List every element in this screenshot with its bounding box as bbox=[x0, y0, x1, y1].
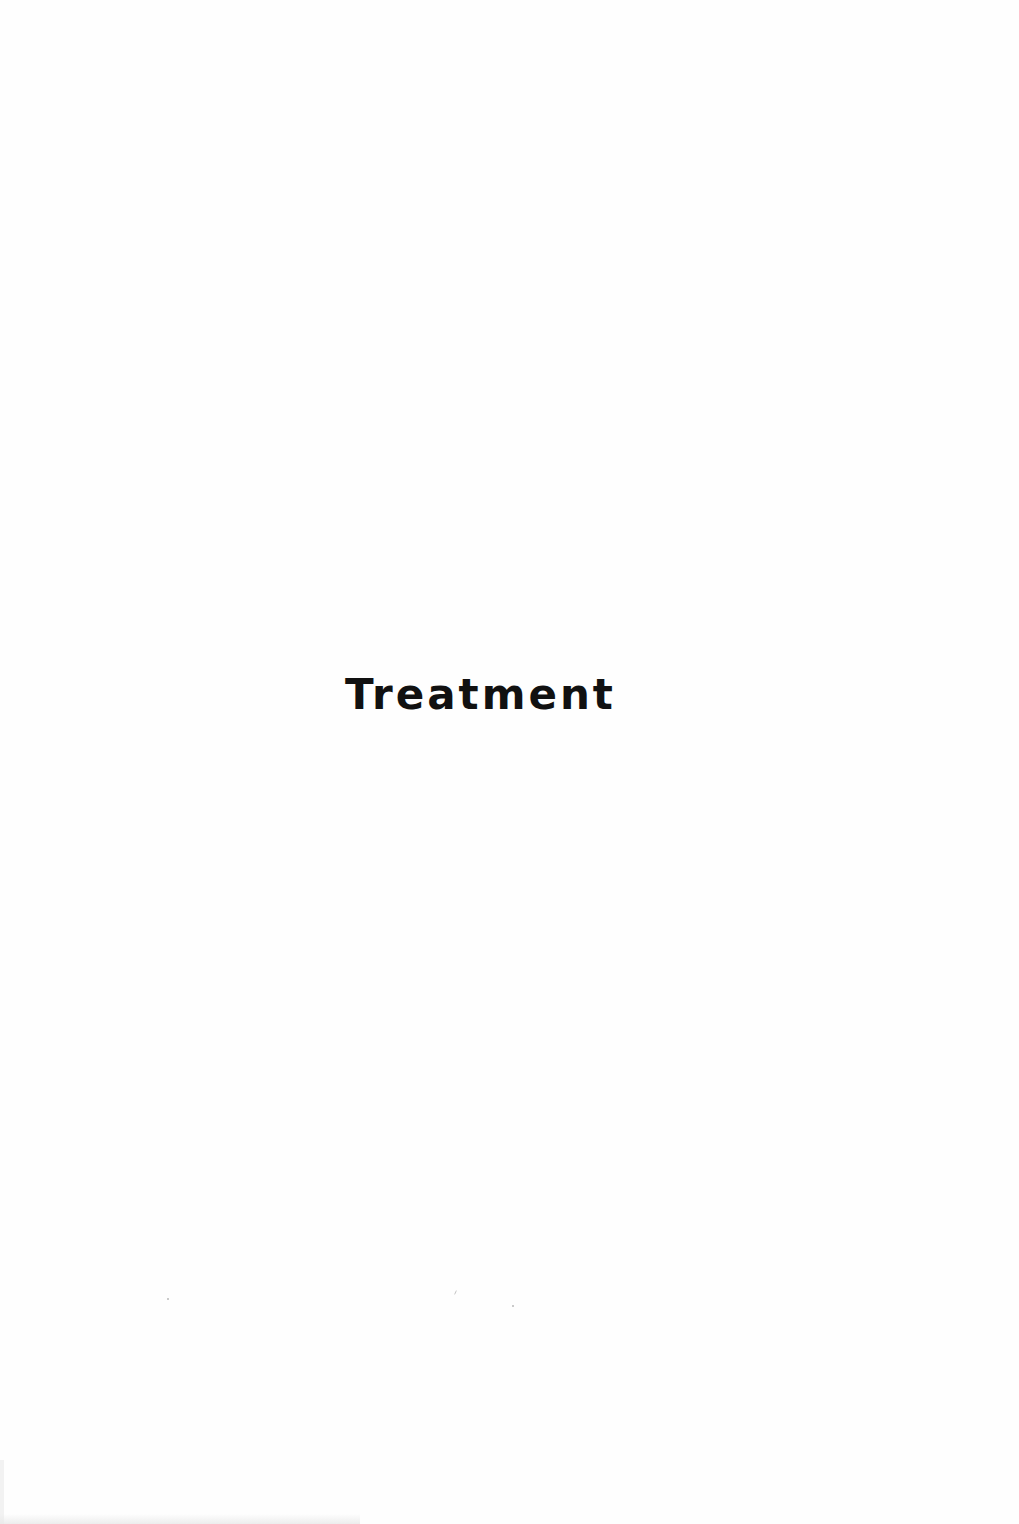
section-title: Treatment bbox=[345, 674, 616, 716]
scan-edge-shadow bbox=[0, 1514, 360, 1524]
scan-speck bbox=[167, 1298, 169, 1300]
scan-speck bbox=[512, 1305, 514, 1307]
scan-speck bbox=[454, 1290, 457, 1295]
document-page: Treatment bbox=[0, 0, 1019, 1524]
